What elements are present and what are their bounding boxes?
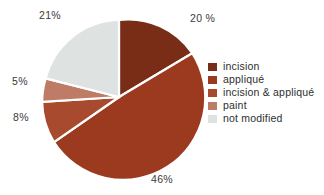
slice-label-paint: 5% xyxy=(12,75,28,87)
slice-label-not-modified: 21% xyxy=(39,9,61,21)
legend-swatch-icon xyxy=(208,76,217,84)
legend-item-incision[interactable]: incision xyxy=(208,60,324,73)
pie-slices xyxy=(42,19,205,179)
legend-item-label: not modified xyxy=(223,112,283,125)
legend-item-label: incision xyxy=(223,60,260,73)
legend-swatch-icon xyxy=(208,89,217,97)
legend-swatch-icon xyxy=(208,102,217,110)
slice-label-incision: 20 % xyxy=(190,12,215,24)
slice-label-applique: 46% xyxy=(151,173,173,185)
legend-item-paint[interactable]: paint xyxy=(208,99,324,112)
legend-item-applique[interactable]: appliqué xyxy=(208,73,324,86)
legend-swatch-icon xyxy=(208,63,217,71)
legend-item-label: appliqué xyxy=(223,73,264,86)
legend-item-incision-applique[interactable]: incision & appliqué xyxy=(208,86,324,99)
legend-item-label: incision & appliqué xyxy=(223,86,314,99)
chart-area: 20 % 46% 8% 5% 21% incision appliqué inc… xyxy=(0,0,324,195)
chart-legend: incision appliqué incision & appliqué pa… xyxy=(208,60,324,125)
slice-label-incision-applique: 8% xyxy=(13,111,29,123)
legend-item-not-modified[interactable]: not modified xyxy=(208,112,324,125)
pie-chart-screenshot: 20 % 46% 8% 5% 21% incision appliqué inc… xyxy=(0,0,324,195)
legend-item-label: paint xyxy=(223,99,247,112)
legend-swatch-icon xyxy=(208,115,217,123)
